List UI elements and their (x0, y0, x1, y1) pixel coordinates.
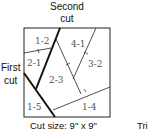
first-cut-label: First cut (1, 63, 20, 86)
piece-label-2-1: 2-1 (27, 59, 42, 68)
piece-label-1-5: 1-5 (27, 103, 42, 112)
first-cut-label-line2: cut (1, 76, 20, 86)
piece-label-3-2: 3-2 (88, 60, 103, 69)
second-cut-label-line1: Second (50, 2, 84, 12)
piece-label-1-2: 1-2 (35, 37, 50, 46)
cut-size-caption: Cut size: 9" x 9" (30, 121, 97, 131)
first-cut-label-line1: First (1, 63, 20, 73)
piece-label-2-3: 2-3 (49, 76, 64, 85)
trim-caption-partial: Tri (137, 121, 148, 131)
second-cut-label: Second cut (50, 2, 84, 24)
second-cut-label-line2: cut (50, 14, 84, 24)
piece-label-1-4: 1-4 (82, 103, 97, 112)
piece-label-4-1: 4-1 (71, 40, 86, 49)
